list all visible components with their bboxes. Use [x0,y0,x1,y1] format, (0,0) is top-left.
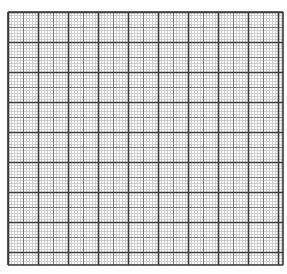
graph-paper [0,0,287,274]
